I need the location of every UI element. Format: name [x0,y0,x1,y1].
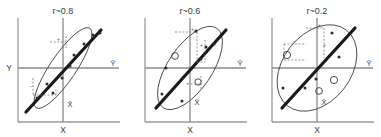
panel-title: r~0.2 [307,6,328,16]
y-mean-label: Ȳ [110,59,115,68]
correlation-figure: + – r~0.8 Y X Ȳ X̄ [0,0,381,137]
deviation-annotations [284,28,324,60]
annotation-label: – [293,38,296,44]
data-points [282,32,341,90]
x-axis-label: X [187,125,193,135]
panel-r08-plot: + – r~0.8 Y X Ȳ X̄ [0,0,127,137]
x-axis-label: X [60,125,66,135]
x-mean-label: X̄ [67,100,72,109]
panel-title: r~0.6 [180,6,201,16]
annotation-label: + [323,42,326,48]
panel-title: r~0.8 [53,6,74,16]
annotation-label: + [57,36,60,42]
panel-r06: + + – r~0.6 X Ȳ X̄ [127,0,254,137]
annotation-label: – [186,80,189,86]
annotation-label: + [318,22,321,28]
x-mean-label: X̄ [194,98,199,107]
annotation-label: + [191,26,194,32]
annotation-label: + [200,42,203,48]
x-axis-label: X [314,125,320,135]
panel-r08: + – r~0.8 Y X Ȳ X̄ [0,0,127,137]
y-mean-label: Ȳ [366,59,371,68]
panel-r02: + + – r~0.2 X Ȳ X̄ [254,0,381,137]
y-mean-label: Ȳ [237,59,242,68]
panel-r02-plot: + + – r~0.2 X Ȳ X̄ [254,0,381,137]
y-axis-label: Y [6,63,12,73]
panel-r06-plot: + + – r~0.6 X Ȳ X̄ [127,0,254,137]
x-mean-label: X̄ [321,98,326,107]
annotation-label: – [30,83,33,89]
